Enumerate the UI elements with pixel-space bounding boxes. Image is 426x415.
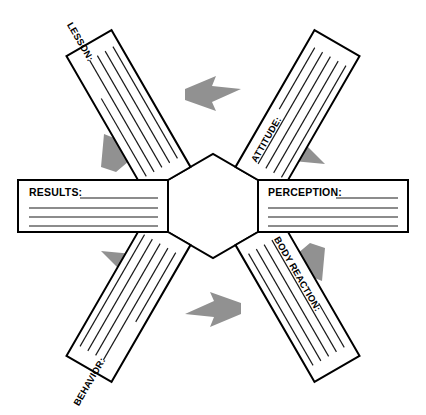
arrow-bottom [185, 292, 241, 327]
node-perception[interactable]: PERCEPTION: [258, 180, 408, 232]
arrow-top [185, 76, 241, 111]
node-results-label: RESULTS: [29, 186, 82, 198]
node-perception-label: PERCEPTION: [268, 186, 342, 198]
node-attitude[interactable]: ATTITUDE: [235, 30, 359, 193]
hexagon-cycle-diagram: LESSON: ATTITUDE: BODY R [0, 0, 426, 415]
node-body-reaction[interactable]: BODY REACTION: [235, 219, 359, 382]
node-results[interactable]: RESULTS: [18, 180, 168, 232]
node-behavior[interactable]: BEHAVIOR: [48, 219, 191, 414]
diagram-canvas: LESSON: ATTITUDE: BODY R [0, 0, 426, 415]
